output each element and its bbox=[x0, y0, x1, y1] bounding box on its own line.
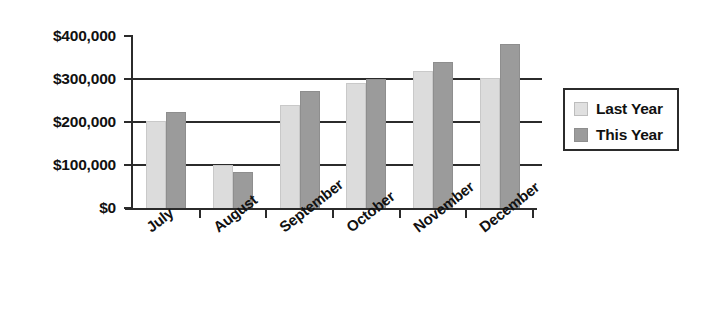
y-axis-tick-label: $0 bbox=[99, 199, 116, 217]
bar-september-last-year bbox=[280, 105, 300, 208]
legend-swatch-icon-last-year bbox=[574, 102, 588, 116]
bar-november-this-year bbox=[433, 62, 453, 208]
y-axis-tick-label: $400,000 bbox=[53, 27, 116, 45]
y-axis-tick bbox=[124, 164, 133, 166]
legend: Last Year This Year bbox=[563, 88, 679, 151]
bar-october-this-year bbox=[366, 79, 386, 208]
bar-chart: $0$100,000$200,000$300,000$400,000 JulyA… bbox=[0, 0, 711, 323]
y-axis-tick-labels: $0$100,000$200,000$300,000$400,000 bbox=[0, 0, 126, 323]
bar-august-last-year bbox=[213, 165, 233, 208]
y-axis-tick bbox=[124, 207, 133, 209]
x-axis-tick-labels: JulyAugustSeptemberOctoberNovemberDecemb… bbox=[133, 208, 533, 323]
bar-december-last-year bbox=[480, 78, 500, 208]
y-axis-tick-label: $300,000 bbox=[53, 70, 116, 88]
y-axis-tick-right bbox=[533, 78, 542, 80]
bar-november-last-year bbox=[413, 71, 433, 208]
y-axis-tick-right bbox=[533, 121, 542, 123]
legend-swatch-icon-this-year bbox=[574, 128, 588, 142]
y-axis-tick-right bbox=[533, 164, 542, 166]
bar-july-this-year bbox=[166, 112, 186, 208]
gridline bbox=[133, 78, 533, 80]
y-axis-tick bbox=[124, 121, 133, 123]
gridline bbox=[133, 164, 533, 166]
x-axis-tick-label-july: July bbox=[143, 204, 176, 235]
bar-july-last-year bbox=[146, 121, 166, 208]
legend-label-last-year: Last Year bbox=[596, 100, 663, 118]
y-axis-tick bbox=[124, 35, 133, 37]
y-axis-tick-label: $100,000 bbox=[53, 156, 116, 174]
y-axis-tick-label: $200,000 bbox=[53, 113, 116, 131]
bar-december-this-year bbox=[500, 44, 520, 208]
legend-item-last-year: Last Year bbox=[574, 97, 677, 120]
bar-october-last-year bbox=[346, 83, 366, 208]
legend-item-this-year: This Year bbox=[574, 123, 677, 146]
legend-label-this-year: This Year bbox=[596, 126, 663, 144]
gridline bbox=[133, 121, 533, 123]
y-axis-tick bbox=[124, 78, 133, 80]
